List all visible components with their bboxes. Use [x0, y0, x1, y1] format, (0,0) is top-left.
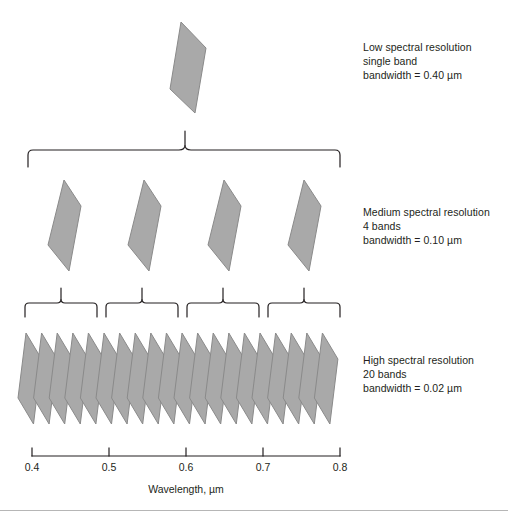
annotation-medium-line-1: Medium spectral resolution — [363, 205, 490, 219]
bracket-low-resolution — [28, 131, 340, 167]
axis-caption: Wavelength, µm — [0, 483, 372, 495]
annotation-high-line-3: bandwidth = 0.02 µm — [363, 381, 474, 395]
wavelength-axis — [32, 448, 340, 456]
band-parallelogram-medium-2 — [128, 180, 161, 271]
axis-tick-label-4: 0.8 — [333, 461, 348, 473]
annotation-low-spectral-resolution: Low spectral resolution single band band… — [363, 40, 472, 83]
band-parallelogram-medium-4 — [288, 180, 321, 271]
high-resolution-band-group — [18, 333, 338, 424]
page-divider — [0, 510, 508, 511]
annotation-low-line-2: single band — [363, 54, 472, 68]
annotation-high-line-2: 20 bands — [363, 367, 474, 381]
medium-resolution-band-group — [48, 180, 321, 271]
axis-tick-label-0: 0.4 — [25, 461, 40, 473]
annotation-medium-line-2: 4 bands — [363, 219, 490, 233]
band-parallelogram-medium-3 — [208, 180, 241, 271]
bracket-medium-1 — [25, 288, 97, 317]
annotation-medium-spectral-resolution: Medium spectral resolution 4 bands bandw… — [363, 205, 490, 248]
axis-tick-label-3: 0.7 — [256, 461, 271, 473]
axis-tick-label-1: 0.5 — [102, 461, 117, 473]
band-parallelogram-medium-1 — [48, 180, 81, 271]
bracket-medium-4 — [268, 288, 340, 317]
band-parallelogram-low — [170, 22, 206, 113]
annotation-low-line-3: bandwidth = 0.40 µm — [363, 68, 472, 82]
bracket-group-medium-resolution — [25, 288, 340, 317]
annotation-high-spectral-resolution: High spectral resolution 20 bands bandwi… — [363, 353, 474, 396]
annotation-high-line-1: High spectral resolution — [363, 353, 474, 367]
bracket-medium-3 — [187, 288, 259, 317]
spectral-resolution-figure: Low spectral resolution single band band… — [0, 0, 508, 517]
axis-tick-label-2: 0.6 — [179, 461, 194, 473]
annotation-low-line-1: Low spectral resolution — [363, 40, 472, 54]
bracket-medium-2 — [106, 288, 178, 317]
low-resolution-band-group — [170, 22, 206, 113]
annotation-medium-line-3: bandwidth = 0.10 µm — [363, 233, 490, 247]
band-parallelogram-high-20 — [314, 333, 338, 424]
